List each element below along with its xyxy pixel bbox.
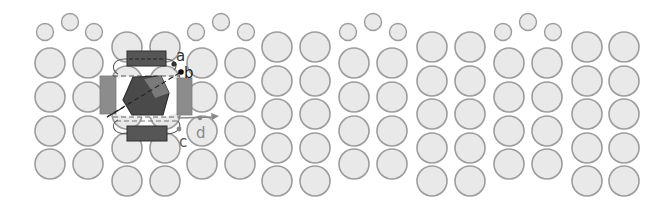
defect-overlay: a b c d	[0, 0, 667, 207]
label-d: d	[196, 124, 206, 142]
bottom-dark-block	[127, 126, 167, 141]
label-c: c	[179, 133, 187, 151]
left-gray-block	[100, 76, 116, 114]
point-b	[178, 69, 184, 75]
arrow-d-shaft	[178, 117, 214, 118]
right-gray-block	[177, 78, 192, 115]
point-c	[177, 127, 182, 132]
arrow-d-head-icon	[211, 113, 219, 120]
label-b: b	[184, 64, 194, 82]
label-a: a	[176, 47, 185, 65]
lattice-diagram: a b c d	[0, 0, 667, 207]
arrow-d-dot	[198, 116, 202, 120]
